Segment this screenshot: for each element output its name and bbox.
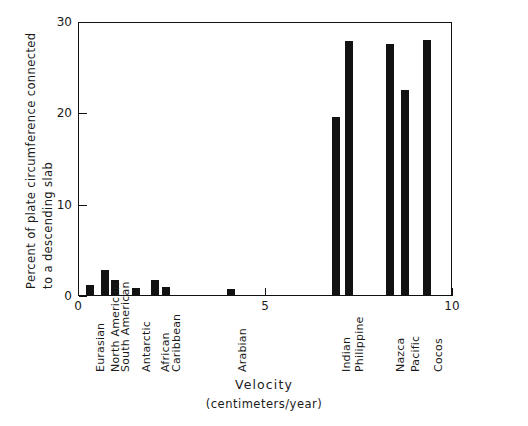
category-label: South American — [119, 281, 132, 372]
plot-area — [78, 22, 452, 296]
y-tick-20 — [79, 113, 87, 114]
category-label: Eurasian — [94, 323, 107, 372]
x-axis-units: (centimeters/year) — [0, 397, 528, 411]
x-tick-0 — [78, 288, 79, 296]
category-label: Antarctic — [140, 321, 153, 372]
x-tick-label-5: 5 — [261, 299, 269, 313]
bar — [162, 287, 170, 296]
y-axis-title-line-2: to a descending slab — [41, 162, 55, 289]
bar-chart-figure: Percent of plate circumference connected… — [0, 0, 528, 426]
y-tick-30 — [79, 22, 87, 23]
x-tick-5 — [265, 288, 266, 296]
x-axis-title: Velocity — [0, 377, 528, 392]
x-tick-10 — [452, 288, 453, 296]
y-tick-label-10: 10 — [32, 198, 72, 212]
y-tick-label-20: 20 — [32, 106, 72, 120]
category-label: Arabian — [236, 328, 249, 372]
bar — [332, 117, 340, 296]
bar — [345, 41, 353, 296]
category-label: Cocos — [432, 338, 445, 372]
bar — [132, 288, 140, 296]
bar — [101, 270, 109, 296]
category-label: Pacific — [409, 336, 422, 372]
bar — [227, 289, 235, 296]
category-label: Philippine — [353, 316, 366, 372]
bar — [401, 90, 409, 296]
category-label: Nazca — [394, 337, 407, 372]
bar — [151, 280, 159, 296]
bar — [86, 285, 94, 296]
y-axis-title: Percent of plate circumference connected… — [0, 0, 56, 300]
x-tick-label-0: 0 — [74, 299, 82, 313]
category-label: Caribbean — [170, 314, 183, 372]
y-tick-10 — [79, 205, 87, 206]
y-axis-title-line-1: Percent of plate circumference connected — [24, 33, 38, 290]
y-tick-0 — [79, 296, 87, 297]
y-tick-label-30: 30 — [32, 15, 72, 29]
bar — [386, 44, 394, 296]
y-tick-label-0: 0 — [32, 289, 72, 303]
category-label: Indian — [340, 337, 353, 372]
bar — [423, 40, 431, 296]
x-tick-label-10: 10 — [444, 299, 459, 313]
